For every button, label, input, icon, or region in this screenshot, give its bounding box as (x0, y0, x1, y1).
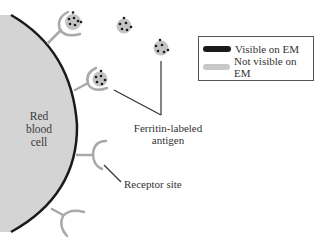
legend-label: Not visible on EM (234, 55, 313, 79)
antigen-pointer-lines (114, 61, 161, 115)
legend-item-not-visible: Not visible on EM (203, 60, 313, 74)
legend-item-visible: Visible on EM (203, 42, 299, 56)
legend-label: Visible on EM (235, 43, 299, 55)
receptor-label: Receptor site (124, 178, 182, 190)
receptor-3 (77, 141, 106, 169)
ferritin-antigen-free-1 (117, 17, 133, 34)
legend: Visible on EM Not visible on EM (198, 36, 314, 81)
receptor-4 (52, 209, 84, 236)
antigen-label-line-2: antigen (128, 134, 208, 146)
cell-label-line-1: Red (14, 110, 64, 123)
antigen-label: Ferritin-labeled antigen (128, 122, 208, 146)
antigen-label-line-1: Ferritin-labeled (128, 122, 208, 134)
receptor-pointer-line (104, 165, 121, 182)
ferritin-antigen-free-2 (154, 39, 170, 56)
cell-label-line-2: blood (14, 123, 64, 136)
cell-label: Red blood cell (14, 110, 64, 149)
cell-label-line-3: cell (14, 136, 64, 149)
ferritin-antigen-bound-2 (93, 70, 108, 87)
ferritin-antigen-bound-1 (65, 11, 82, 30)
legend-swatch-black (203, 46, 231, 52)
legend-swatch-gray (203, 64, 230, 70)
